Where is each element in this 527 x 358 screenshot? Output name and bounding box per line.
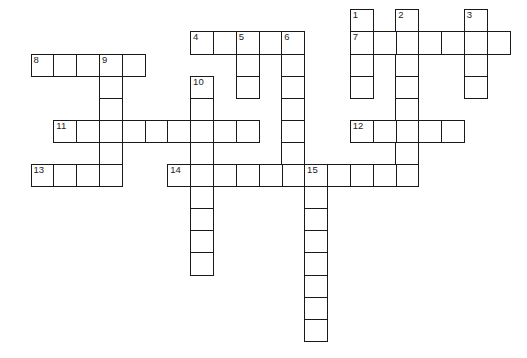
crossword-cell[interactable] bbox=[304, 319, 328, 342]
crossword-cell[interactable] bbox=[76, 54, 100, 77]
crossword-cell[interactable] bbox=[122, 54, 146, 77]
crossword-cell[interactable] bbox=[373, 164, 397, 187]
crossword-cell[interactable] bbox=[99, 76, 123, 99]
clue-number: 15 bbox=[307, 165, 318, 175]
crossword-cell[interactable] bbox=[395, 76, 419, 99]
crossword-cell[interactable] bbox=[464, 54, 488, 77]
clue-number: 7 bbox=[353, 32, 358, 42]
crossword-cell[interactable]: 14 bbox=[167, 164, 191, 187]
crossword-cell[interactable]: 9 bbox=[99, 54, 123, 77]
crossword-cell[interactable]: 7 bbox=[350, 31, 374, 54]
clue-number: 9 bbox=[102, 55, 107, 65]
crossword-cell[interactable]: 4 bbox=[190, 31, 214, 54]
crossword-cell[interactable] bbox=[167, 120, 191, 143]
crossword-cell[interactable] bbox=[190, 252, 214, 275]
crossword-cell[interactable] bbox=[99, 98, 123, 121]
crossword-cell[interactable] bbox=[236, 54, 260, 77]
crossword-cell[interactable] bbox=[99, 142, 123, 165]
crossword-cell[interactable] bbox=[281, 120, 305, 143]
crossword-cell[interactable] bbox=[76, 164, 100, 187]
crossword-cell[interactable] bbox=[350, 164, 374, 187]
crossword-cell[interactable] bbox=[304, 252, 328, 275]
crossword-cell[interactable] bbox=[441, 31, 465, 54]
clue-number: 1 bbox=[353, 10, 358, 20]
crossword-grid: 172345689101112131415 bbox=[0, 0, 527, 358]
crossword-cell[interactable]: 12 bbox=[350, 120, 374, 143]
clue-number: 2 bbox=[398, 10, 403, 20]
crossword-cell[interactable] bbox=[236, 76, 260, 99]
crossword-cell[interactable] bbox=[304, 186, 328, 209]
clue-number: 12 bbox=[353, 121, 364, 131]
crossword-cell[interactable]: 2 bbox=[395, 9, 419, 32]
crossword-cell[interactable] bbox=[373, 31, 397, 54]
crossword-cell[interactable] bbox=[418, 31, 442, 54]
crossword-cell[interactable] bbox=[190, 230, 214, 253]
clue-number: 10 bbox=[193, 77, 204, 87]
clue-number: 5 bbox=[239, 32, 244, 42]
crossword-cell[interactable] bbox=[395, 142, 419, 165]
crossword-cell[interactable] bbox=[190, 164, 214, 187]
crossword-cell[interactable]: 11 bbox=[53, 120, 77, 143]
crossword-cell[interactable] bbox=[373, 120, 397, 143]
crossword-cell[interactable] bbox=[53, 164, 77, 187]
crossword-cell[interactable] bbox=[304, 208, 328, 231]
crossword-cell[interactable] bbox=[99, 120, 123, 143]
crossword-cell[interactable] bbox=[259, 164, 283, 187]
crossword-cell[interactable] bbox=[464, 31, 488, 54]
crossword-cell[interactable]: 3 bbox=[464, 9, 488, 32]
crossword-cell[interactable] bbox=[464, 76, 488, 99]
crossword-cell[interactable] bbox=[350, 76, 374, 99]
crossword-cell[interactable] bbox=[304, 297, 328, 320]
crossword-cell[interactable] bbox=[281, 54, 305, 77]
crossword-cell[interactable] bbox=[213, 120, 237, 143]
crossword-cell[interactable]: 13 bbox=[31, 164, 55, 187]
clue-number: 4 bbox=[193, 32, 198, 42]
clue-number: 14 bbox=[170, 165, 181, 175]
crossword-cell[interactable] bbox=[350, 54, 374, 77]
crossword-cell[interactable] bbox=[395, 120, 419, 143]
crossword-cell[interactable] bbox=[99, 164, 123, 187]
crossword-cell[interactable] bbox=[304, 275, 328, 298]
crossword-cell[interactable] bbox=[122, 120, 146, 143]
crossword-cell[interactable] bbox=[441, 120, 465, 143]
crossword-cell[interactable] bbox=[190, 98, 214, 121]
crossword-cell[interactable] bbox=[190, 120, 214, 143]
crossword-cell[interactable]: 10 bbox=[190, 76, 214, 99]
crossword-cell[interactable] bbox=[395, 54, 419, 77]
crossword-cell[interactable] bbox=[395, 164, 419, 187]
clue-number: 6 bbox=[284, 32, 289, 42]
crossword-cell[interactable] bbox=[304, 230, 328, 253]
crossword-cell[interactable] bbox=[281, 142, 305, 165]
crossword-cell[interactable]: 8 bbox=[31, 54, 55, 77]
crossword-cell[interactable] bbox=[236, 120, 260, 143]
crossword-cell[interactable] bbox=[327, 164, 351, 187]
crossword-cell[interactable] bbox=[236, 164, 260, 187]
crossword-cell[interactable] bbox=[259, 31, 283, 54]
crossword-cell[interactable] bbox=[395, 98, 419, 121]
clue-number: 13 bbox=[34, 165, 45, 175]
clue-number: 8 bbox=[34, 55, 39, 65]
crossword-cell[interactable]: 1 bbox=[350, 9, 374, 32]
clue-number: 3 bbox=[467, 10, 472, 20]
crossword-cell[interactable] bbox=[145, 120, 169, 143]
crossword-cell[interactable] bbox=[190, 208, 214, 231]
crossword-cell[interactable] bbox=[53, 54, 77, 77]
crossword-cell[interactable] bbox=[487, 31, 511, 54]
crossword-cell[interactable] bbox=[418, 120, 442, 143]
crossword-cell[interactable] bbox=[190, 186, 214, 209]
crossword-cell[interactable] bbox=[190, 142, 214, 165]
crossword-cell[interactable] bbox=[281, 76, 305, 99]
crossword-cell[interactable] bbox=[213, 164, 237, 187]
clue-number: 11 bbox=[56, 121, 66, 131]
crossword-cell[interactable] bbox=[281, 98, 305, 121]
crossword-cell[interactable] bbox=[76, 120, 100, 143]
crossword-cell[interactable]: 5 bbox=[236, 31, 260, 54]
crossword-cell[interactable] bbox=[281, 164, 305, 187]
crossword-cell[interactable]: 15 bbox=[304, 164, 328, 187]
crossword-cell[interactable] bbox=[395, 31, 419, 54]
crossword-cell[interactable] bbox=[213, 31, 237, 54]
crossword-cell[interactable]: 6 bbox=[281, 31, 305, 54]
